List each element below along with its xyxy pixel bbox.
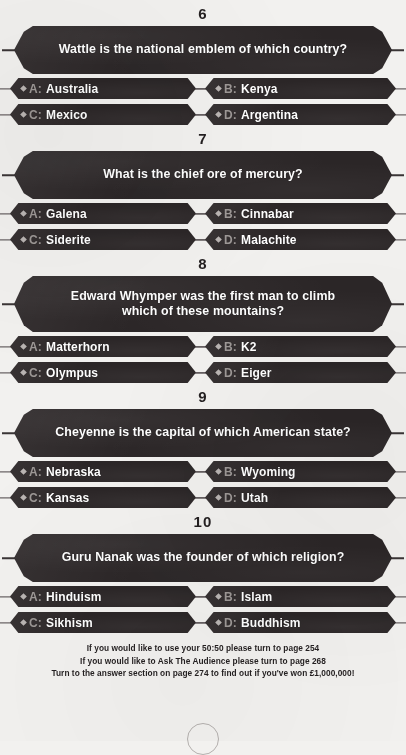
diamond-bullet-icon [20,619,27,626]
answer-option-d[interactable]: D:Utah [205,487,396,508]
answer-hexagon: D:Eiger [205,362,396,383]
answer-text: Kansas [46,491,89,505]
answer-option-a[interactable]: A:Hinduism [10,586,196,607]
answer-text: Mexico [46,108,87,122]
diamond-bullet-icon [20,343,27,350]
question-banner-hexagon: What is the chief ore of mercury? [14,151,392,199]
footer-instructions: If you would like to use your 50:50 plea… [0,633,406,680]
answer-option-b[interactable]: B:Islam [205,586,396,607]
answer-row: A:AustraliaB:Kenya [0,78,406,99]
answer-text: Buddhism [241,616,300,630]
answer-hexagon: D:Argentina [205,104,396,125]
diamond-bullet-icon [215,343,222,350]
answer-text: Nebraska [46,465,101,479]
diamond-bullet-icon [20,111,27,118]
answer-text: Eiger [241,366,272,380]
answer-option-d[interactable]: D:Malachite [205,229,396,250]
answer-option-c[interactable]: C:Sikhism [10,612,196,633]
answer-option-b[interactable]: B:Wyoming [205,461,396,482]
diamond-bullet-icon [215,593,222,600]
answer-option-b[interactable]: B:Kenya [205,78,396,99]
diamond-bullet-icon [20,369,27,376]
answer-option-b[interactable]: B:K2 [205,336,396,357]
answer-hexagon: B:Wyoming [205,461,396,482]
question-block: 8Edward Whymper was the first man to cli… [0,250,406,383]
answer-text: Malachite [241,233,297,247]
answer-text: Matterhorn [46,340,110,354]
diamond-bullet-icon [20,468,27,475]
answer-text: Olympus [46,366,98,380]
questions-container: 6Wattle is the national emblem of which … [0,0,406,633]
question-banner: Wattle is the national emblem of which c… [0,26,406,74]
question-text: Cheyenne is the capital of which America… [21,425,385,440]
answer-hexagon: B:Cinnabar [205,203,396,224]
answer-option-a[interactable]: A:Australia [10,78,196,99]
answer-hexagon: C:Kansas [10,487,196,508]
answer-text: K2 [241,340,257,354]
question-banner: Cheyenne is the capital of which America… [0,409,406,457]
answer-hexagon: C:Olympus [10,362,196,383]
answer-option-c[interactable]: C:Siderite [10,229,196,250]
page-number-circle [187,723,219,755]
answer-grid: A:NebraskaB:WyomingC:KansasD:Utah [0,457,406,508]
answer-text: Siderite [46,233,91,247]
answer-letter: B: [224,465,241,479]
answer-letter: C: [29,491,46,505]
answer-letter: A: [29,590,46,604]
answer-row: A:GalenaB:Cinnabar [0,203,406,224]
answer-option-c[interactable]: C:Kansas [10,487,196,508]
answer-option-c[interactable]: C:Mexico [10,104,196,125]
answer-row: A:HinduismB:Islam [0,586,406,607]
answer-hexagon: A:Hinduism [10,586,196,607]
answer-hexagon: A:Australia [10,78,196,99]
answer-option-c[interactable]: C:Olympus [10,362,196,383]
diamond-bullet-icon [20,85,27,92]
question-number: 6 [0,0,406,26]
answer-option-b[interactable]: B:Cinnabar [205,203,396,224]
answer-row: C:MexicoD:Argentina [0,104,406,125]
answer-option-a[interactable]: A:Nebraska [10,461,196,482]
footer-line-ask-the-audience: If you would like to Ask The Audience pl… [0,655,406,668]
answer-grid: A:MatterhornB:K2C:OlympusD:Eiger [0,332,406,383]
diamond-bullet-icon [20,236,27,243]
question-banner-hexagon: Wattle is the national emblem of which c… [14,26,392,74]
diamond-bullet-icon [20,593,27,600]
question-banner-hexagon: Guru Nanak was the founder of which reli… [14,534,392,582]
answer-hexagon: D:Utah [205,487,396,508]
footer-line-5050: If you would like to use your 50:50 plea… [0,642,406,655]
answer-letter: A: [29,465,46,479]
answer-text: Islam [241,590,272,604]
answer-hexagon: B:K2 [205,336,396,357]
answer-hexagon: C:Sikhism [10,612,196,633]
answer-row: C:OlympusD:Eiger [0,362,406,383]
answer-letter: D: [224,233,241,247]
answer-grid: A:HinduismB:IslamC:SikhismD:Buddhism [0,582,406,633]
question-block: 7What is the chief ore of mercury?A:Gale… [0,125,406,250]
answer-letter: D: [224,616,241,630]
answer-letter: C: [29,108,46,122]
question-number: 7 [0,125,406,151]
question-text: Wattle is the national emblem of which c… [25,42,382,57]
answer-option-d[interactable]: D:Eiger [205,362,396,383]
answer-letter: C: [29,616,46,630]
answer-letter: B: [224,82,241,96]
answer-letter: D: [224,108,241,122]
answer-hexagon: A:Matterhorn [10,336,196,357]
answer-hexagon: A:Galena [10,203,196,224]
question-banner: Edward Whymper was the first man to clim… [0,276,406,332]
answer-option-a[interactable]: A:Matterhorn [10,336,196,357]
question-block: 10Guru Nanak was the founder of which re… [0,508,406,633]
answer-grid: A:AustraliaB:KenyaC:MexicoD:Argentina [0,74,406,125]
answer-hexagon: B:Islam [205,586,396,607]
answer-hexagon: C:Mexico [10,104,196,125]
answer-option-d[interactable]: D:Argentina [205,104,396,125]
answer-letter: A: [29,207,46,221]
answer-letter: C: [29,366,46,380]
answer-option-d[interactable]: D:Buddhism [205,612,396,633]
answer-text: Argentina [241,108,298,122]
answer-option-a[interactable]: A:Galena [10,203,196,224]
answer-text: Galena [46,207,87,221]
answer-row: A:NebraskaB:Wyoming [0,461,406,482]
answer-hexagon: D:Buddhism [205,612,396,633]
